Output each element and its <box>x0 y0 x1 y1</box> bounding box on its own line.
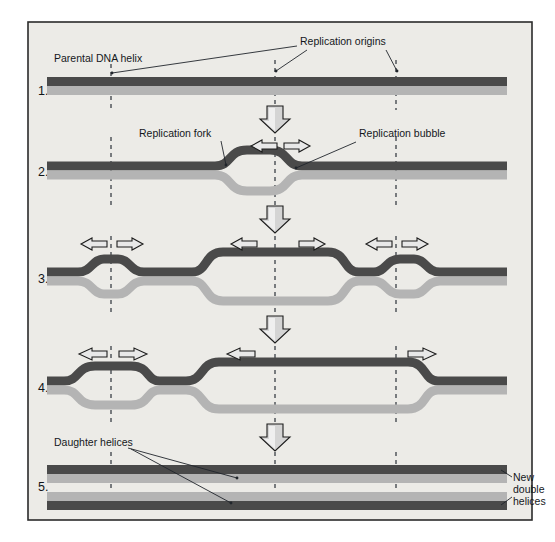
dna-replication-figure: 1. Parental DNA helix Replication origin… <box>0 0 555 542</box>
label-new-double-helices-line2: double <box>513 483 545 495</box>
label-daughter-helices: Daughter helices <box>54 436 133 448</box>
step5-duplex-2-dark <box>47 501 507 510</box>
step5-duplex-1-light <box>47 474 507 483</box>
label-replication-bubble: Replication bubble <box>359 127 446 139</box>
step-number-3: 3. <box>38 272 48 286</box>
step-number-5: 5. <box>38 480 48 494</box>
step5-duplex-2-light <box>47 492 507 501</box>
step1-parental-strand-bottom <box>47 86 507 95</box>
label-replication-origins: Replication origins <box>300 35 386 47</box>
step-number-4: 4. <box>38 381 48 395</box>
step-number-2: 2. <box>38 165 48 179</box>
label-replication-fork: Replication fork <box>139 127 212 139</box>
step-number-1: 1. <box>38 84 48 98</box>
label-parental-dna-helix: Parental DNA helix <box>54 52 143 64</box>
step5-duplex-1-dark <box>47 465 507 474</box>
label-new-double-helices-line1: New <box>513 471 534 483</box>
step-1-dna <box>47 77 507 95</box>
label-new-double-helices-line3: helices <box>513 495 546 507</box>
step1-parental-strand-top <box>47 77 507 86</box>
